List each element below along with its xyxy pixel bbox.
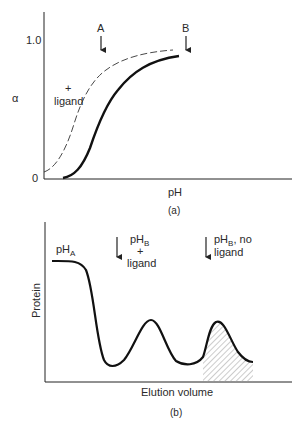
arrow-a-label: A <box>97 22 105 34</box>
y-tick-bottom: 0 <box>32 172 38 184</box>
x-axis-label-a: pH <box>168 186 182 198</box>
ligand-label-a: ligand <box>54 95 83 107</box>
caption-b: (b) <box>170 407 182 418</box>
phb-no-ligand-word: ligand <box>214 246 243 258</box>
panel-b: Protein Elution volume (b) pHA pHB + lig… <box>30 222 292 418</box>
y-axis-label-b: Protein <box>30 283 42 318</box>
dashed-curve-ligand <box>44 50 173 172</box>
panel-a: 1.0 0 α pH (a) A B + ligand <box>12 12 292 216</box>
arrow-b-label: B <box>182 22 189 34</box>
x-axis-label-b: Elution volume <box>141 386 213 398</box>
plus-label: + <box>65 82 71 94</box>
phb-ligand-word: ligand <box>127 257 156 269</box>
y-tick-top: 1.0 <box>26 34 41 46</box>
phb-plus-label: + <box>137 245 143 257</box>
y-axis-label-a: α <box>12 92 19 104</box>
figure: 1.0 0 α pH (a) A B + ligand Protein Elut… <box>0 0 305 422</box>
pha-label: pHA <box>56 243 76 258</box>
solid-curve-no-ligand <box>63 56 179 178</box>
caption-a: (a) <box>168 205 180 216</box>
